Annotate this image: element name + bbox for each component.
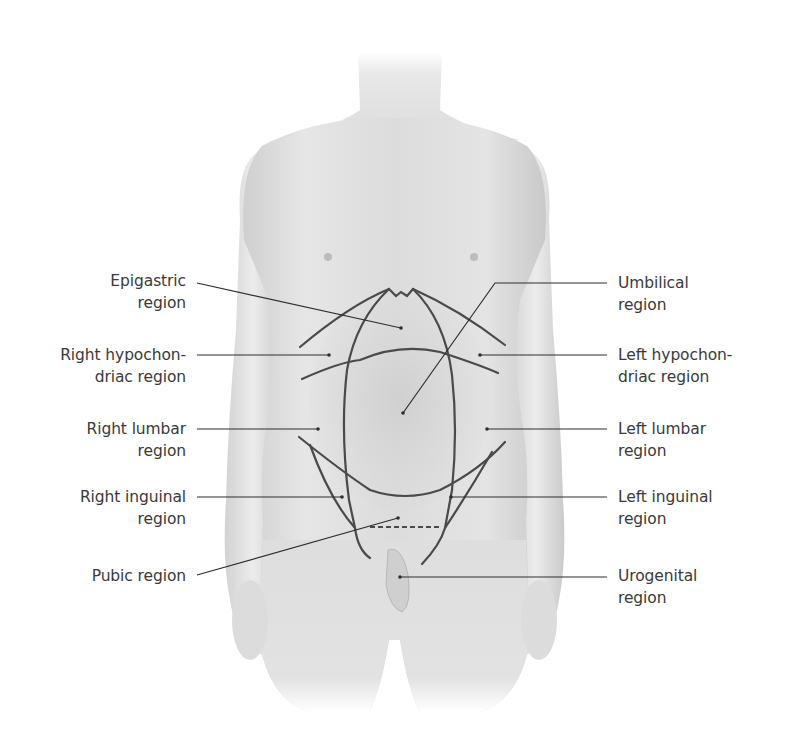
- label-right-hypochondriac-region: Right hypochon- driac region: [60, 344, 186, 388]
- label-right-lumbar-region: Right lumbar region: [87, 418, 186, 462]
- label-left-inguinal-region: Left inguinal region: [618, 486, 713, 530]
- left-hand: [521, 580, 557, 660]
- right-nipple: [324, 253, 332, 261]
- right-hand: [232, 580, 268, 660]
- left-nipple: [470, 253, 478, 261]
- body-silhouette: [225, 52, 565, 712]
- label-left-lumbar-region: Left lumbar region: [618, 418, 706, 462]
- label-umbilical-region: Umbilical region: [618, 272, 689, 316]
- label-urogenital-region: Urogenital region: [618, 565, 697, 609]
- label-left-hypochondriac-region: Left hypochon- driac region: [618, 344, 732, 388]
- label-pubic-region: Pubic region: [92, 565, 186, 587]
- label-right-inguinal-region: Right inguinal region: [80, 486, 186, 530]
- label-epigastric-region: Epigastric region: [110, 270, 186, 314]
